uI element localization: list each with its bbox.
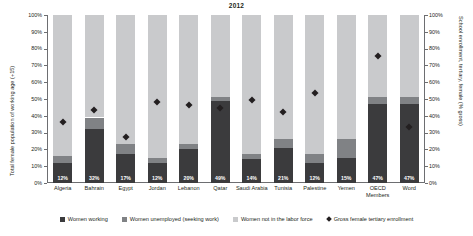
legend-item[interactable]: Women unemployed (seeking work) bbox=[122, 216, 219, 222]
y-axis-left-title: Total female population of working age (… bbox=[9, 66, 15, 176]
tick-l-50 bbox=[44, 99, 47, 100]
legend-item[interactable]: Gross female tertiary enrollment bbox=[327, 216, 414, 222]
bar-segment bbox=[400, 15, 419, 97]
bar-segment: 12% bbox=[305, 163, 324, 183]
bar-group[interactable]: 47% bbox=[400, 15, 419, 183]
tick-l-30 bbox=[44, 133, 47, 134]
bar-group[interactable]: 47% bbox=[368, 15, 387, 183]
bar-group[interactable]: 12% bbox=[53, 15, 72, 183]
legend-label: Women not in the labor force bbox=[241, 216, 313, 222]
bar-segment bbox=[116, 144, 135, 154]
bar-group[interactable]: 17% bbox=[116, 15, 135, 183]
bar-segment bbox=[337, 15, 356, 139]
y-axis-right-label: 0% bbox=[429, 180, 463, 186]
bar-segment bbox=[274, 139, 293, 147]
bar-segment bbox=[116, 15, 135, 144]
bar-value-label: 20% bbox=[179, 176, 198, 181]
chart-title: 2012 bbox=[0, 2, 473, 9]
tick-l-70 bbox=[44, 65, 47, 66]
bar-segment: 47% bbox=[368, 104, 387, 183]
bar-segment bbox=[53, 156, 72, 163]
y-axis-right-label: 10% bbox=[429, 163, 463, 169]
bar-value-label: 49% bbox=[211, 176, 230, 181]
bar-group[interactable]: 12% bbox=[305, 15, 324, 183]
bar-group[interactable]: 32% bbox=[85, 15, 104, 183]
bar-segment: 32% bbox=[85, 129, 104, 183]
bar-group[interactable]: 49% bbox=[211, 15, 230, 183]
bar-value-label: 32% bbox=[85, 176, 104, 181]
bar-segment bbox=[211, 15, 230, 97]
bar-segment bbox=[85, 118, 104, 130]
x-axis-label: Word bbox=[389, 185, 429, 192]
bar-value-label: 47% bbox=[400, 176, 419, 181]
bar-segment bbox=[85, 15, 104, 117]
bar-segment bbox=[179, 144, 198, 149]
legend-label: Women unemployed (seeking work) bbox=[130, 216, 219, 222]
bar-segment: 12% bbox=[53, 163, 72, 183]
bar-segment: 15% bbox=[337, 158, 356, 183]
bar-group[interactable]: 15% bbox=[337, 15, 356, 183]
y-axis-left-label: 100% bbox=[8, 12, 42, 18]
tick-l-60 bbox=[44, 82, 47, 83]
plot-area: 12%32%17%12%20%49%14%21%12%15%47%47% 0%0… bbox=[47, 15, 425, 183]
tick-l-10 bbox=[44, 166, 47, 167]
bar-segment: 14% bbox=[242, 159, 261, 183]
tick-r-20 bbox=[425, 149, 428, 150]
chart-legend: Women workingWomen unemployed (seeking w… bbox=[0, 212, 473, 226]
bar-group[interactable]: 20% bbox=[179, 15, 198, 183]
bar-group[interactable]: 21% bbox=[274, 15, 293, 183]
y-axis-right-label: 30% bbox=[429, 129, 463, 135]
y-axis-left-label: 80% bbox=[8, 45, 42, 51]
bar-value-label: 21% bbox=[274, 176, 293, 181]
bar-segment bbox=[305, 15, 324, 154]
bar-value-label: 47% bbox=[368, 176, 387, 181]
bar-segment bbox=[305, 154, 324, 162]
bar-segment: 17% bbox=[116, 154, 135, 183]
x-axis-labels: AlgeriaBahrainEgyptJordanLebanonQatarSau… bbox=[47, 185, 425, 209]
legend-item[interactable]: Women not in the labor force bbox=[233, 216, 313, 222]
bar-segment bbox=[368, 97, 387, 104]
bar-group[interactable]: 12% bbox=[148, 15, 167, 183]
legend-label: Women working bbox=[68, 216, 108, 222]
tick-r-30 bbox=[425, 133, 428, 134]
bar-segment bbox=[242, 154, 261, 159]
bar-value-label: 17% bbox=[116, 176, 135, 181]
tick-l-20 bbox=[44, 149, 47, 150]
tick-l-100 bbox=[44, 15, 47, 16]
tick-r-80 bbox=[425, 49, 428, 50]
legend-item[interactable]: Women working bbox=[60, 216, 108, 222]
bar-value-label: 12% bbox=[148, 176, 167, 181]
tick-r-90 bbox=[425, 32, 428, 33]
bar-segment bbox=[148, 15, 167, 158]
bar-segment bbox=[400, 97, 419, 104]
bar-segment: 12% bbox=[148, 163, 167, 183]
bar-value-label: 14% bbox=[242, 176, 261, 181]
bar-segment bbox=[211, 97, 230, 100]
y-axis-left-label: 0% bbox=[8, 180, 42, 186]
bar-value-label: 12% bbox=[305, 176, 324, 181]
bar-segment: 20% bbox=[179, 149, 198, 183]
bar-segment bbox=[179, 15, 198, 144]
tick-l-90 bbox=[44, 32, 47, 33]
tick-r-60 bbox=[425, 82, 428, 83]
tick-l-80 bbox=[44, 49, 47, 50]
bar-segment bbox=[242, 15, 261, 154]
tick-l-40 bbox=[44, 116, 47, 117]
square-swatch-icon bbox=[60, 217, 65, 222]
bar-value-label: 12% bbox=[53, 176, 72, 181]
bar-group[interactable]: 14% bbox=[242, 15, 261, 183]
tick-r-70 bbox=[425, 65, 428, 66]
y-axis-right-title: School enrollment, tertiary, female (% g… bbox=[458, 16, 464, 126]
bar-segment bbox=[337, 139, 356, 157]
tick-r-0 bbox=[425, 183, 428, 184]
tick-r-10 bbox=[425, 166, 428, 167]
tick-r-100 bbox=[425, 15, 428, 16]
bar-segment: 47% bbox=[400, 104, 419, 183]
square-swatch-icon bbox=[233, 217, 238, 222]
chart-container: 2012 12%32%17%12%20%49%14%21%12%15%47%47… bbox=[0, 0, 473, 236]
bar-segment bbox=[148, 158, 167, 163]
tick-l-0 bbox=[44, 183, 47, 184]
bar-segment: 49% bbox=[211, 101, 230, 183]
bar-value-label: 15% bbox=[337, 176, 356, 181]
bar-segment bbox=[53, 15, 72, 156]
